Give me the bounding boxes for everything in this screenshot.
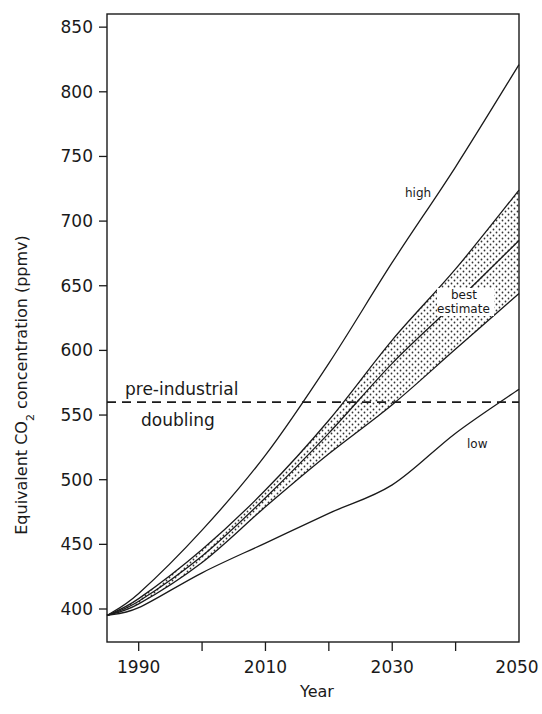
- y-tick-label: 550: [61, 405, 93, 425]
- co2-concentration-chart: 400450500550600650700750800850 199020102…: [0, 0, 542, 714]
- low-series-label: low: [467, 437, 488, 451]
- x-axis-title: Year: [299, 682, 334, 701]
- y-tick-label: 650: [61, 276, 93, 296]
- best-estimate-label-line1: best: [451, 288, 477, 302]
- y-tick-label: 750: [61, 146, 93, 166]
- y-tick-label: 850: [61, 17, 93, 37]
- y-tick-label: 600: [61, 340, 93, 360]
- reference-label-line2: doubling: [141, 410, 215, 430]
- x-tick-label: 2010: [244, 657, 287, 677]
- high-series-label: high: [405, 186, 431, 200]
- y-tick-label: 800: [61, 82, 93, 102]
- y-tick-label: 400: [61, 599, 93, 619]
- y-axis-title: Equivalent CO2 concentration (ppmv): [12, 235, 37, 535]
- x-tick-label: 2030: [371, 657, 414, 677]
- best-estimate-label-line2: estimate: [437, 302, 490, 316]
- y-tick-label: 700: [61, 211, 93, 231]
- y-tick-label: 500: [61, 470, 93, 490]
- y-axis: 400450500550600650700750800850: [61, 17, 107, 619]
- x-axis: 1990201020302050: [117, 642, 539, 677]
- plot-area: [107, 14, 519, 642]
- x-tick-label: 1990: [117, 657, 160, 677]
- y-tick-label: 450: [61, 534, 93, 554]
- reference-label-line1: pre-industrial: [125, 379, 238, 399]
- x-tick-label: 2050: [495, 657, 538, 677]
